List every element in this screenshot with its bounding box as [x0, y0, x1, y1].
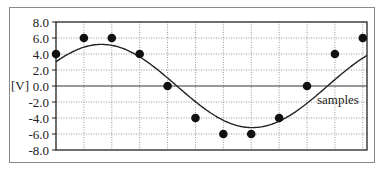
sample-point — [359, 34, 368, 43]
sample-point — [52, 50, 61, 59]
y-tick-label: -4.0 — [28, 111, 49, 126]
sample-point — [303, 82, 312, 91]
y-tick-label: 2.0 — [33, 63, 49, 78]
y-tick-label: 0.0 — [33, 79, 49, 94]
sample-point — [163, 82, 172, 91]
sample-point — [275, 114, 284, 123]
sample-point — [331, 50, 340, 59]
sample-point — [135, 50, 144, 59]
y-tick-label: 8.0 — [33, 15, 49, 30]
y-tick-label: -2.0 — [28, 95, 49, 110]
sample-point — [80, 34, 89, 43]
sample-point — [191, 114, 200, 123]
sample-point — [107, 34, 116, 43]
sample-point — [247, 130, 256, 139]
x-axis-label: samples — [317, 92, 359, 108]
y-tick-label: -8.0 — [28, 143, 49, 158]
y-tick-label: 6.0 — [33, 31, 49, 46]
y-tick-label: -6.0 — [28, 127, 49, 142]
chart: 8.06.04.02.00.0-2.0-4.0-6.0-8.0 — [0, 0, 383, 171]
y-tick-label: 4.0 — [33, 47, 49, 62]
sample-point — [219, 130, 228, 139]
y-axis-label: [V] — [11, 78, 29, 94]
